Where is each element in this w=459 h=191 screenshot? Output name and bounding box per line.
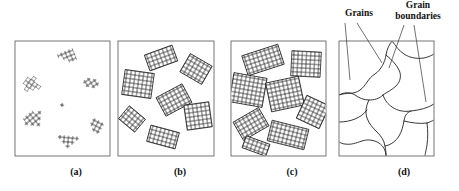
label-grain-boundaries-line2: boundaries: [395, 11, 440, 21]
grain-block: [291, 51, 322, 78]
grain-block: [229, 73, 267, 108]
grain-block: [266, 76, 305, 112]
panel-d: [339, 23, 434, 156]
label-grain-boundaries-line1: Grain: [406, 0, 430, 10]
nucleus: [60, 103, 65, 108]
crystallite: [184, 102, 212, 130]
caption-panel-b: (b): [160, 166, 200, 177]
label-grains: Grains: [336, 8, 382, 19]
caption-panel-c: (c): [272, 166, 312, 177]
crystallite: [122, 69, 155, 98]
caption-panel-d: (d): [384, 166, 424, 177]
figure-canvas: [0, 0, 459, 191]
figure-polycrystalline-solidification: Grains Grain boundaries (a) (b) (c) (d): [0, 0, 459, 191]
panel-c: [229, 41, 330, 156]
panel-a: [15, 41, 110, 156]
label-grains-text: Grains: [345, 8, 373, 18]
caption-panel-a: (a): [56, 166, 96, 177]
panel-b: [118, 41, 214, 156]
label-grain-boundaries: Grain boundaries: [388, 0, 448, 21]
